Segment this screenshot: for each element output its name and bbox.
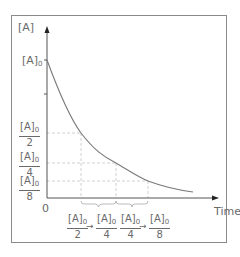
interval1-to: [A]04 — [96, 214, 117, 240]
x-axis-label: Time — [214, 206, 240, 217]
origin-label: 0 — [42, 203, 49, 214]
y-tick-a0: [A]0 — [22, 55, 43, 70]
interval-braces — [81, 201, 148, 207]
y-tick-a0-eighth: [A]08 — [19, 176, 40, 202]
interval2-to: [A]08 — [149, 214, 170, 240]
decay-curve — [47, 60, 193, 192]
axes — [44, 32, 214, 198]
guide-lines — [47, 133, 148, 198]
interval1-arrow-icon: → — [86, 221, 94, 232]
y-axis-label: [A] — [18, 22, 34, 33]
y-tick-a0-half: [A]02 — [19, 122, 40, 148]
x-axis-arrow-icon — [212, 196, 219, 201]
interval2-from: [A]04 — [120, 214, 141, 240]
interval1-from: [A]02 — [67, 214, 88, 240]
y-axis-arrow-icon — [45, 26, 50, 33]
interval2-arrow-icon: → — [139, 221, 147, 232]
